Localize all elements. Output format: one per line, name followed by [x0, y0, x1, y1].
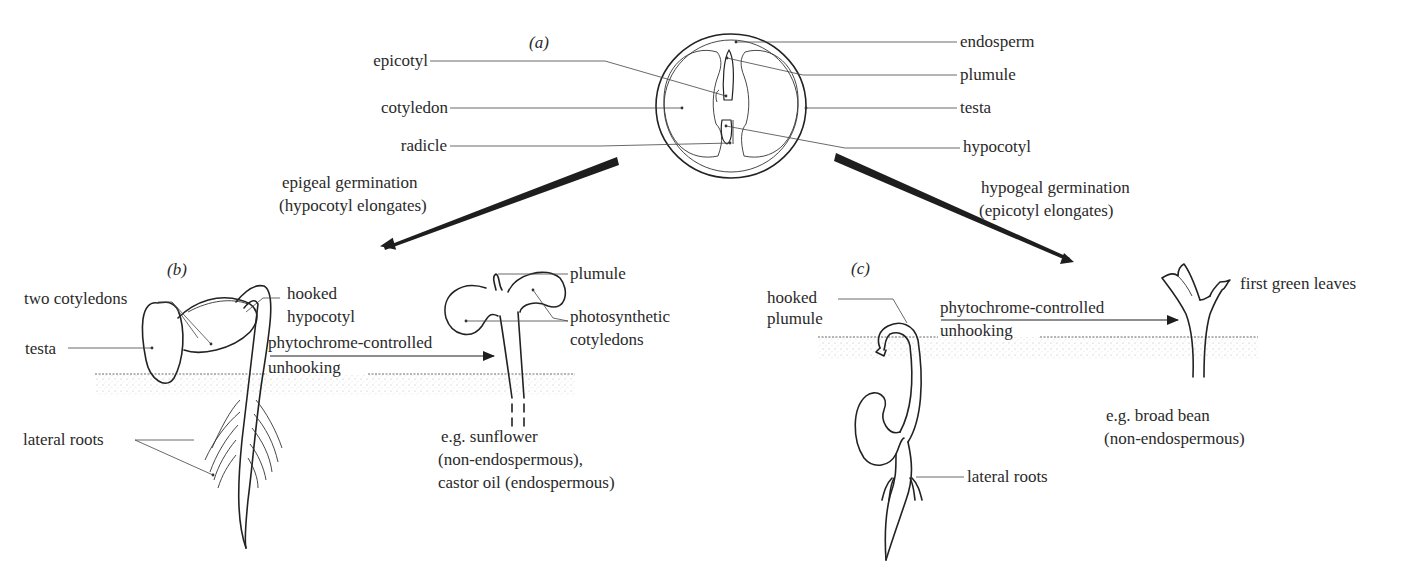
hypogeal-subheading: (epicotyl elongates): [979, 201, 1114, 220]
leader-epicotyl: [430, 61, 726, 96]
label-plumule: plumule: [960, 65, 1016, 84]
label-epicotyl: epicotyl: [373, 51, 428, 70]
label-first-green-leaves: first green leaves: [1240, 274, 1356, 293]
label-two-cotyledons: two cotyledons: [24, 289, 127, 308]
branch-arrows: epigeal germination (hypocotyl elongates…: [279, 153, 1130, 264]
seed-endosperm-boundary: [664, 40, 798, 172]
label-lateral-roots-b: lateral roots: [23, 430, 104, 449]
panel-a-tag: (a): [529, 33, 549, 52]
label-cotyledons-b: cotyledons: [570, 330, 644, 349]
label-lateral-roots-c: lateral roots: [967, 467, 1048, 486]
sunflower-plumule: [494, 274, 502, 290]
label-endosperm: endosperm: [960, 32, 1035, 51]
sunflower-seedling: [445, 272, 565, 426]
leader-plumule: [727, 58, 957, 75]
left-photosynthetic-cotyledon: [445, 286, 498, 335]
label-testa: testa: [960, 98, 992, 117]
epigeal-example-3: castor oil (endospermous): [438, 473, 615, 492]
label-plumule-b: plumule: [570, 264, 626, 283]
panel-a-seed: (a) epicotyl cotyledon radicl: [373, 32, 1034, 178]
hypogeal-example-1: e.g. broad bean: [1106, 406, 1210, 425]
hypogeal-heading: hypogeal germination: [981, 178, 1130, 197]
epigeal-hypocotyl-left-edge: [236, 286, 271, 548]
seed-left-cotyledon: [664, 50, 722, 157]
soil-left: [95, 374, 575, 396]
leader-radicle: [450, 143, 731, 146]
epigeal-hypocotyl-right-edge: [239, 301, 258, 548]
label-plumule-c: plumule: [767, 309, 823, 328]
panel-c-tag: (c): [851, 259, 870, 278]
label-hypocotyl-b: hypocotyl: [287, 307, 355, 326]
germination-diagram: (a) epicotyl cotyledon radicl: [0, 0, 1403, 579]
panel-b-tag: (b): [167, 260, 187, 279]
epigeal-heading: epigeal germination: [282, 173, 418, 192]
hypogeal-arrow-label: phytochrome-controlled: [940, 298, 1105, 317]
label-hooked: hooked: [287, 284, 338, 303]
seed-radicle: [721, 120, 732, 144]
hypogeal-lateral-root-right: [910, 478, 922, 500]
label-hypocotyl: hypocotyl: [963, 137, 1031, 156]
hypogeal-arrow-label-2: unhooking: [940, 321, 1013, 340]
epigeal-arrow-label: phytochrome-controlled: [268, 333, 433, 352]
epigeal-subheading: (hypocotyl elongates): [279, 196, 427, 215]
seed-right-cotyledon: [741, 50, 798, 157]
epigeal-arrow-label-2: unhooking: [268, 358, 341, 377]
label-photosynthetic: photosynthetic: [570, 307, 671, 326]
label-cotyledon: cotyledon: [381, 98, 449, 117]
panel-c-hypogeal: (c) hooked plumule lateral roots phytoch…: [767, 259, 1356, 560]
epigeal-example-2: (non-endospermous),: [438, 450, 583, 469]
hypogeal-example-2: (non-endospermous): [1104, 429, 1245, 448]
seed-epicotyl: [716, 90, 719, 102]
label-hooked-c: hooked: [767, 288, 818, 307]
epigeal-lateral-roots: [205, 400, 282, 488]
leader-hypocotyl: [726, 126, 960, 148]
right-photosynthetic-cotyledon: [508, 272, 565, 312]
epigeal-testa: [142, 302, 183, 383]
panel-b-epigeal: (b): [23, 260, 671, 548]
label-radicle: radicle: [401, 136, 447, 155]
epigeal-example-1: e.g. sunflower: [441, 427, 538, 446]
label-testa-b: testa: [25, 339, 57, 358]
